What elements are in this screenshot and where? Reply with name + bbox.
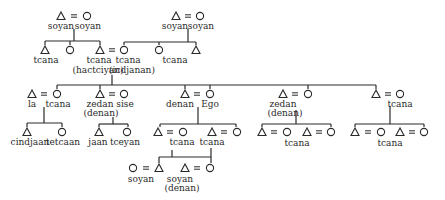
female-circle-icon	[377, 128, 384, 135]
male-triangle-icon	[95, 128, 103, 136]
female-circle-icon	[83, 12, 90, 19]
female-circle-icon	[179, 128, 186, 135]
male-triangle-icon	[57, 12, 65, 20]
female-circle-icon	[206, 164, 213, 171]
kin-term-label: soyan	[162, 21, 188, 31]
kin-term-label: (denan)	[267, 108, 302, 118]
kinship-diagram: soyansoyansoyansoyantcanatcana(hactciyan…	[0, 0, 445, 200]
female-circle-icon	[58, 128, 65, 135]
kin-term-label: tcana	[284, 138, 309, 148]
kin-term-label: tcana	[86, 55, 111, 65]
kin-term-label: tcana	[169, 137, 194, 147]
male-triangle-icon	[181, 164, 189, 172]
kin-term-label: soyan	[48, 21, 74, 31]
female-circle-icon	[206, 90, 213, 97]
female-circle-icon	[420, 128, 427, 135]
male-triangle-icon	[208, 128, 216, 136]
kin-term-label: denan	[166, 99, 194, 109]
female-circle-icon	[233, 128, 240, 135]
female-circle-icon	[66, 46, 73, 53]
male-triangle-icon	[372, 90, 380, 98]
kin-term-label: tcana	[162, 55, 187, 65]
female-circle-icon	[283, 128, 290, 135]
male-triangle-icon	[351, 128, 359, 136]
male-triangle-icon	[96, 46, 104, 54]
male-triangle-icon	[192, 46, 200, 54]
male-triangle-icon	[96, 90, 104, 98]
male-triangle-icon	[258, 128, 266, 136]
kin-term-label: jaan	[88, 137, 107, 147]
female-circle-icon	[327, 128, 334, 135]
kin-term-label: soyan	[128, 174, 154, 184]
kin-term-label: tcana	[387, 99, 412, 109]
kin-term-label: la	[28, 99, 36, 109]
female-circle-icon	[155, 46, 162, 53]
female-circle-icon	[129, 164, 136, 171]
male-triangle-icon	[41, 46, 49, 54]
male-triangle-icon	[181, 90, 189, 98]
male-triangle-icon	[28, 90, 36, 98]
male-triangle-icon	[396, 128, 404, 136]
female-circle-icon	[120, 90, 127, 97]
kin-term-label: tcana	[45, 99, 70, 109]
female-circle-icon	[304, 90, 311, 97]
male-triangle-icon	[23, 128, 31, 136]
kin-term-label: soyan	[75, 21, 101, 31]
female-circle-icon	[123, 128, 130, 135]
kin-term-label: (denan)	[83, 108, 118, 118]
kin-term-label: tcana	[377, 138, 402, 148]
female-circle-icon	[53, 90, 60, 97]
kin-term-label: soyan	[188, 21, 214, 31]
male-triangle-icon	[172, 12, 180, 20]
kin-term-label: tcana	[33, 55, 58, 65]
female-circle-icon	[196, 12, 203, 19]
kin-term-label: cindjaan	[11, 137, 50, 147]
kin-term-label: tceyan	[110, 137, 140, 147]
kin-term-label: sise	[116, 99, 133, 109]
male-triangle-icon	[155, 164, 163, 172]
male-triangle-icon	[303, 128, 311, 136]
kin-term-label: (icdjanan)	[109, 65, 155, 75]
kin-term-label: (denan)	[164, 183, 199, 193]
kin-term-label: tetcaan	[46, 137, 80, 147]
female-circle-icon	[396, 90, 403, 97]
kin-term-label: Ego	[201, 99, 219, 109]
kin-term-label: tcana	[199, 137, 224, 147]
male-triangle-icon	[154, 128, 162, 136]
male-triangle-icon	[279, 90, 287, 98]
kin-term-label: tcana	[115, 55, 140, 65]
female-circle-icon	[120, 46, 127, 53]
